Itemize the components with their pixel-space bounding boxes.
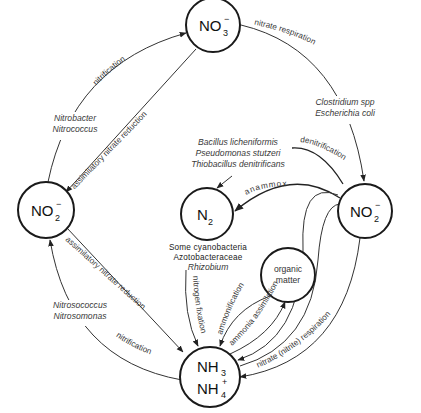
label-nitrification-bottom: nitrification <box>115 331 154 357</box>
organism-nitrosomonas: Nitrosomonas <box>53 311 107 321</box>
node-no2-left: NO 2 − <box>18 182 74 238</box>
label-denitrification: denitrification <box>300 135 349 162</box>
svg-text:−: − <box>375 200 380 210</box>
label-anammox: anammox <box>243 179 288 197</box>
organism-nitrobacter: Nitrobacter <box>54 113 97 123</box>
svg-text:2: 2 <box>374 214 379 224</box>
svg-text:organic: organic <box>274 264 303 274</box>
label-nitrate-nitrite-respiration: nitrate (nitrite) respiration <box>255 309 333 370</box>
svg-text:+: + <box>222 377 227 387</box>
node-no2-right: NO 2 − <box>338 184 392 238</box>
label-nitrification-top: nitrification <box>91 54 127 87</box>
svg-text:3: 3 <box>223 28 228 38</box>
nitrogen-cycle-diagram: NO 3 − NO 2 − NO 2 − N 2 organic matter … <box>0 0 421 413</box>
svg-text:4: 4 <box>221 390 226 400</box>
node-nh3-nh4: NH 3 NH 4 + <box>180 347 240 407</box>
organism-pseudomonas: Pseudomonas stutzeri <box>195 148 281 158</box>
svg-text:N: N <box>197 206 208 223</box>
svg-text:NH: NH <box>197 380 219 397</box>
svg-text:−: − <box>224 14 229 24</box>
node-n2: N 2 <box>181 188 233 240</box>
organism-azotobacteraceae: Azotobacteraceae <box>173 253 242 262</box>
organism-bacillus: Bacillus licheniformis <box>198 137 278 147</box>
svg-text:2: 2 <box>208 217 213 227</box>
svg-text:NO: NO <box>199 17 222 34</box>
svg-text:NO: NO <box>31 202 54 219</box>
node-no3: NO 3 − <box>186 0 240 52</box>
organism-nitrosococcus: Nitrosococcus <box>53 300 108 310</box>
edge-denitrification-to-n2 <box>217 176 232 188</box>
svg-text:2: 2 <box>55 213 60 223</box>
organism-escherichia: Escherichia coli <box>315 108 376 118</box>
organism-clostridium: Clostridium spp <box>315 97 374 107</box>
svg-text:−: − <box>56 199 61 209</box>
organism-thiobacillus: Thiobacillus denitrificans <box>191 159 285 169</box>
organism-rhizobium: Rhizobium <box>188 262 229 272</box>
organism-cyanobacteria: Some cyanobacteria <box>169 243 247 252</box>
svg-text:NH: NH <box>197 358 219 375</box>
organism-nitrococcus: Nitrococcus <box>53 124 99 134</box>
label-nitrogen-fixation: nitrogen fixation <box>191 276 208 335</box>
edge-nitrification-top <box>48 33 186 182</box>
svg-text:NO: NO <box>350 203 373 220</box>
